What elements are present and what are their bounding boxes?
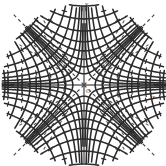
orthogonal-grid-canvas bbox=[0, 0, 166, 166]
hyperbolic-field-figure: y x O bbox=[0, 0, 166, 166]
origin-label: O bbox=[86, 88, 90, 94]
x-axis-label: x bbox=[152, 94, 155, 101]
y-axis-label: y bbox=[85, 1, 88, 8]
